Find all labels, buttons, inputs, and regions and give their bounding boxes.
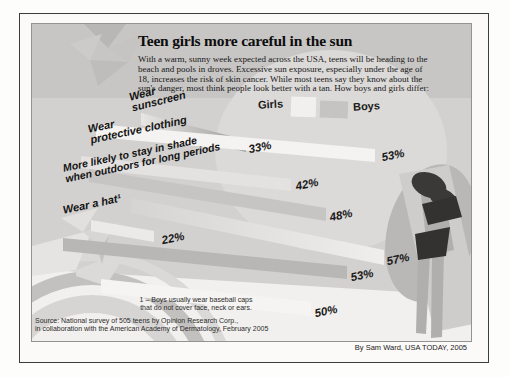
- byline-credit: By Sam Ward, USA TODAY, 2005: [355, 343, 467, 352]
- scanned-newspaper-snapshot: Teen girls more careful in the sun With …: [0, 0, 509, 377]
- source-line: Source: National survey of 505 teens by …: [35, 317, 335, 332]
- footnote: 1 – Boys usually wear baseball caps that…: [128, 296, 264, 311]
- chart-title: Teen girls more careful in the sun: [138, 32, 472, 50]
- column-header-boys: Boys: [353, 99, 380, 112]
- infographic-panel: Teen girls more careful in the sun With …: [31, 23, 472, 342]
- chart-intro: With a warm, sunny week expected across …: [138, 55, 472, 94]
- column-header-girls: Girls: [258, 97, 284, 110]
